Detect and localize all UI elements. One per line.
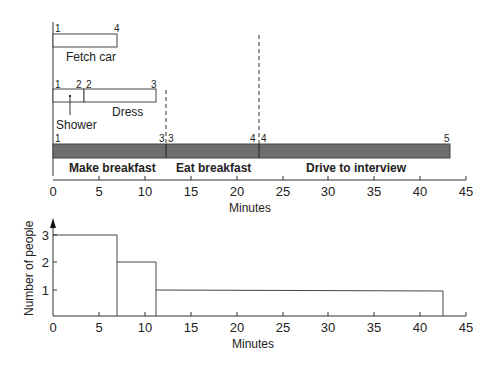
svg-text:0: 0 <box>49 184 56 199</box>
node-1: 1 <box>55 23 61 34</box>
svg-text:40: 40 <box>413 320 427 335</box>
fetch-car-label: Fetch car <box>66 50 116 64</box>
node-4: 4 <box>114 23 120 34</box>
svg-text:1: 1 <box>42 283 49 298</box>
node-3b: 3 <box>159 133 165 144</box>
step-1 <box>156 290 443 316</box>
svg-text:20: 20 <box>230 320 244 335</box>
dress-label: Dress <box>112 105 143 119</box>
step-3 <box>53 235 117 316</box>
node-4c: 4 <box>261 133 267 144</box>
node-1c: 1 <box>55 133 61 144</box>
svg-text:25: 25 <box>276 184 290 199</box>
svg-text:25: 25 <box>276 320 290 335</box>
shower-pointer-dot <box>69 95 71 97</box>
svg-text:5: 5 <box>95 184 102 199</box>
svg-text:30: 30 <box>321 320 335 335</box>
svg-text:15: 15 <box>184 320 198 335</box>
dress-bar <box>84 89 156 102</box>
step-2 <box>117 262 156 316</box>
eat-breakfast-label: Eat breakfast <box>176 161 251 175</box>
svg-text:2: 2 <box>42 255 49 270</box>
drive-label: Drive to interview <box>306 161 407 175</box>
node-5: 5 <box>444 133 450 144</box>
svg-text:45: 45 <box>459 320 473 335</box>
top-x-ticks <box>99 176 466 180</box>
svg-text:45: 45 <box>459 184 473 199</box>
svg-text:15: 15 <box>184 184 198 199</box>
top-x-axis-label: Minutes <box>229 201 271 215</box>
svg-text:10: 10 <box>138 320 152 335</box>
node-2b: 2 <box>86 79 92 90</box>
svg-text:5: 5 <box>95 320 102 335</box>
shower-label: Shower <box>56 118 97 132</box>
svg-text:30: 30 <box>321 184 335 199</box>
bottom-x-ticks <box>99 312 466 316</box>
node-4b: 4 <box>250 133 256 144</box>
bottom-x-axis-label: Minutes <box>232 337 274 351</box>
node-3c: 3 <box>168 133 174 144</box>
svg-text:3: 3 <box>42 228 49 243</box>
bottom-y-axis-label: Number of people <box>22 220 36 316</box>
node-1b: 1 <box>55 79 61 90</box>
fetch-car-bar <box>53 34 117 47</box>
node-3a: 3 <box>151 79 157 90</box>
bottom-y-tick-labels: 3 2 1 <box>42 228 49 298</box>
svg-text:35: 35 <box>367 320 381 335</box>
svg-text:10: 10 <box>138 184 152 199</box>
critical-path-bar <box>53 144 450 158</box>
make-breakfast-label: Make breakfast <box>69 161 156 175</box>
shower-bar <box>53 89 84 102</box>
node-2a: 2 <box>76 79 82 90</box>
svg-text:20: 20 <box>230 184 244 199</box>
top-x-tick-labels: 0 5 10 15 20 25 30 35 40 45 <box>49 184 473 199</box>
bottom-y-ticks <box>53 235 57 290</box>
svg-text:35: 35 <box>367 184 381 199</box>
activity-chart: 1 4 Fetch car 1 2 2 3 Dress Shower 1 3 3… <box>0 0 502 372</box>
svg-text:40: 40 <box>413 184 427 199</box>
svg-text:0: 0 <box>49 320 56 335</box>
bottom-x-tick-labels: 0 5 10 15 20 25 30 35 40 45 <box>49 320 473 335</box>
y-axis-arrow-icon <box>50 218 56 228</box>
